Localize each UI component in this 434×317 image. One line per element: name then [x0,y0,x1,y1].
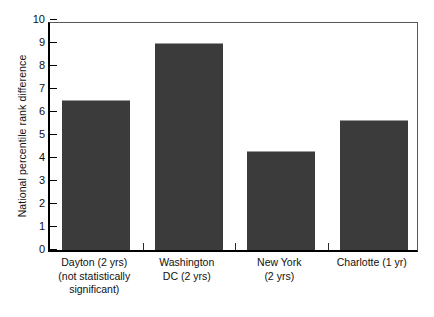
y-tick-5: 5 [50,134,57,135]
x-tick-1 [143,243,144,250]
bar [340,120,408,250]
x-axis-label-line-3: significant) [34,283,155,297]
y-tick-label-5: 5 [39,127,45,142]
y-tick-7: 7 [50,88,57,89]
y-tick-9: 9 [50,42,57,43]
y-tick-label-8: 8 [39,58,45,73]
y-axis-title: National percentile rank difference [16,31,28,241]
x-axis-label: Charlotte (1 yr) [312,256,433,270]
y-tick-8: 8 [50,65,57,66]
y-tick-label-2: 2 [39,196,45,211]
y-tick-label-10: 10 [33,12,45,27]
bar [155,43,223,250]
y-tick-label-6: 6 [39,104,45,119]
y-tick-label-0: 0 [39,242,45,257]
y-tick-label-4: 4 [39,150,45,165]
y-tick-1: 1 [50,226,57,227]
plot-area: 012345678910 [48,22,418,252]
y-tick-3: 3 [50,180,57,181]
y-tick-6: 6 [50,111,57,112]
y-tick-label-3: 3 [39,173,45,188]
y-tick-0: 0 [50,249,57,250]
y-tick-10: 10 [50,19,57,20]
x-tick-3 [328,243,329,250]
bar [62,100,130,251]
y-tick-2: 2 [50,203,57,204]
x-axis-label-line-1: Charlotte (1 yr) [312,256,433,270]
y-tick-4: 4 [50,157,57,158]
x-tick-2 [235,243,236,250]
y-tick-label-9: 9 [39,35,45,50]
y-tick-label-7: 7 [39,81,45,96]
bar [247,151,315,250]
y-tick-label-1: 1 [39,219,45,234]
x-axis-label-line-2: (2 yrs) [219,270,340,284]
bar-chart-figure: National percentile rank difference 0123… [0,0,434,317]
